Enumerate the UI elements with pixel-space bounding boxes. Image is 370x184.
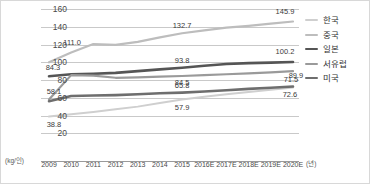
x-axis-tick-label: 2014	[152, 161, 168, 168]
legend-item-label: 서유럽	[323, 60, 347, 69]
data-point-label: 145.9	[276, 8, 295, 16]
legend-item[interactable]: 서유럽	[305, 57, 367, 72]
series-line	[49, 22, 293, 63]
chart-container: 111.0132.7145.984.393.8100.284.589.958.1…	[0, 0, 370, 184]
x-axis-tick-label: 2015	[174, 161, 190, 168]
data-point-label: 132.7	[173, 22, 192, 30]
legend-item[interactable]: 중국	[305, 28, 367, 43]
x-axis-tick-label: 2009	[41, 161, 57, 168]
x-axis-unit-label: (년)	[306, 161, 316, 168]
y-axis-tick-label: 140	[41, 23, 67, 32]
legend-swatch-line-icon	[305, 48, 318, 50]
data-point-label: 93.8	[175, 57, 190, 65]
legend-item-label: 미국	[323, 74, 339, 83]
x-axis-tick-label: 2019E	[261, 161, 281, 168]
x-axis-tick-label: 2010	[63, 161, 79, 168]
y-axis-tick-label: 160	[41, 5, 67, 14]
y-axis-tick-label: 80	[41, 76, 67, 85]
data-point-label: 65.8	[175, 82, 190, 90]
data-point-label: 100.2	[276, 48, 295, 56]
chart-legend: 한국중국일본서유럽미국	[305, 13, 367, 86]
legend-item-label: 중국	[323, 31, 339, 40]
legend-swatch-line-icon	[305, 63, 318, 65]
y-axis-tick-label: 120	[41, 41, 67, 50]
data-point-label: 71.5	[284, 76, 299, 84]
x-axis-tick-label: 2017E	[216, 161, 236, 168]
legend-swatch-line-icon	[305, 19, 318, 21]
y-axis-unit-label: (kg/인)	[5, 158, 24, 165]
legend-item-label: 일본	[323, 45, 339, 54]
plot-area: 111.0132.7145.984.393.8100.284.589.958.1…	[41, 9, 299, 151]
y-axis-tick-label: 60	[41, 94, 67, 103]
series-lines-group	[41, 9, 299, 153]
legend-item-label: 한국	[323, 16, 339, 25]
y-axis-tick-label: 40	[41, 112, 67, 121]
legend-swatch-line-icon	[305, 77, 318, 79]
legend-item[interactable]: 미국	[305, 71, 367, 86]
legend-item[interactable]: 일본	[305, 42, 367, 57]
x-axis-tick-label: 2018E	[239, 161, 259, 168]
x-axis-tick-label: 2013	[130, 161, 146, 168]
y-axis-tick-label: 20	[41, 129, 67, 138]
data-point-label: 38.8	[47, 121, 62, 129]
x-axis-tick-label: 2016E	[194, 161, 214, 168]
x-axis-tick-label: 2020E	[283, 161, 303, 168]
legend-swatch-line-icon	[305, 34, 318, 36]
x-axis-tick-label: 2012	[108, 161, 124, 168]
legend-item[interactable]: 한국	[305, 13, 367, 28]
y-axis-tick-label: 100	[41, 58, 67, 67]
data-point-label: 57.9	[175, 104, 190, 112]
data-point-label: 72.6	[283, 91, 298, 99]
series-line	[49, 87, 293, 102]
x-axis-tick-label: 2011	[86, 161, 101, 168]
